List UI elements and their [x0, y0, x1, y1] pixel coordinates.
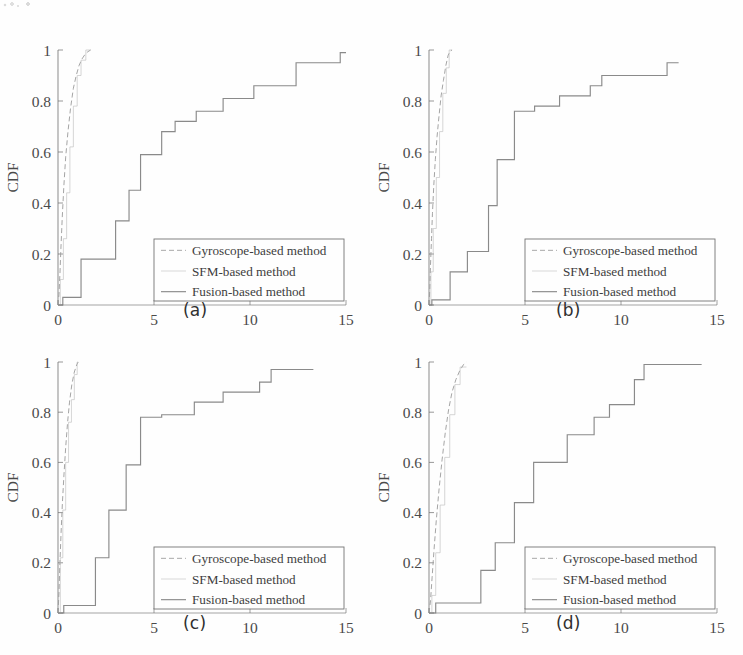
y-tick-label: 0 [414, 297, 422, 314]
y-tick-label: 0.4 [403, 195, 423, 212]
x-tick-label: 15 [338, 311, 354, 328]
legend-label-fusion-based-method: Fusion-based method [563, 284, 677, 299]
legend-label-sfm-based-method: SFM-based method [563, 572, 667, 587]
legend-label-fusion-based-method: Fusion-based method [192, 284, 306, 299]
panel-a: 00.20.40.60.81051015CDFGyroscope-based m… [0, 20, 372, 330]
panel-b-caption: (b) [556, 300, 581, 320]
legend-label-fusion-based-method: Fusion-based method [192, 592, 306, 607]
y-tick-label: 0.8 [403, 93, 423, 110]
x-tick-label: 5 [150, 619, 158, 636]
legend-label-fusion-based-method: Fusion-based method [563, 592, 677, 607]
y-axis-label: CDF [375, 162, 392, 193]
y-tick-label: 0.2 [403, 246, 422, 263]
y-tick-label: 0.2 [32, 246, 51, 263]
x-tick-label: 15 [338, 619, 354, 636]
y-tick-label: 0.6 [403, 144, 423, 161]
series-sfm-based-method [58, 50, 91, 305]
panel-c-plot: 00.20.40.60.81051015CDFGyroscope-based m… [0, 340, 372, 640]
legend-label-gyroscope-based-method: Gyroscope-based method [563, 243, 698, 258]
x-tick-label: 5 [521, 311, 529, 328]
y-tick-label: 0.2 [403, 554, 422, 571]
cdf-figure: 00.20.40.60.81051015CDFGyroscope-based m… [0, 0, 743, 655]
series-gyroscope-based-method [429, 50, 452, 305]
series-gyroscope-based-method [58, 362, 78, 613]
series-sfm-based-method [58, 362, 78, 613]
y-tick-label: 0 [43, 605, 51, 622]
y-tick-label: 1 [414, 42, 422, 59]
x-tick-label: 0 [425, 619, 433, 636]
y-tick-label: 0.8 [32, 93, 52, 110]
series-sfm-based-method [429, 367, 466, 613]
y-tick-label: 0.4 [32, 195, 52, 212]
y-tick-label: 0 [43, 297, 51, 314]
x-tick-label: 10 [242, 619, 258, 636]
y-tick-label: 0.6 [32, 144, 52, 161]
y-tick-label: 1 [43, 42, 51, 59]
panel-d: 00.20.40.60.81051015CDFGyroscope-based m… [371, 340, 743, 640]
y-tick-label: 0.8 [32, 404, 52, 421]
legend-label-sfm-based-method: SFM-based method [192, 572, 296, 587]
panel-c-caption: (c) [183, 613, 206, 633]
x-tick-label: 0 [54, 619, 62, 636]
y-axis-label: CDF [375, 472, 392, 503]
scan-artifact [2, 1, 36, 10]
x-tick-label: 5 [150, 311, 158, 328]
y-tick-label: 0.2 [32, 554, 51, 571]
legend-label-gyroscope-based-method: Gyroscope-based method [192, 551, 327, 566]
y-tick-label: 1 [43, 354, 51, 371]
y-tick-label: 0 [414, 605, 422, 622]
y-axis-label: CDF [4, 162, 21, 193]
legend-label-sfm-based-method: SFM-based method [192, 264, 296, 279]
x-tick-label: 10 [613, 311, 629, 328]
x-tick-label: 0 [425, 311, 433, 328]
y-tick-label: 1 [414, 354, 422, 371]
panel-b-plot: 00.20.40.60.81051015CDFGyroscope-based m… [371, 20, 743, 330]
x-tick-label: 15 [709, 311, 725, 328]
panel-b: 00.20.40.60.81051015CDFGyroscope-based m… [371, 20, 743, 330]
x-tick-label: 5 [521, 619, 529, 636]
series-sfm-based-method [429, 50, 452, 305]
y-tick-label: 0.6 [32, 454, 52, 471]
panel-a-caption: (a) [183, 300, 207, 320]
y-tick-label: 0.8 [403, 404, 423, 421]
x-tick-label: 0 [54, 311, 62, 328]
legend-label-sfm-based-method: SFM-based method [563, 264, 667, 279]
x-tick-label: 15 [709, 619, 725, 636]
y-tick-label: 0.4 [403, 504, 423, 521]
y-tick-label: 0.6 [403, 454, 423, 471]
legend-label-gyroscope-based-method: Gyroscope-based method [192, 243, 327, 258]
panel-d-caption: (d) [556, 613, 581, 633]
x-tick-label: 10 [613, 619, 629, 636]
panel-c: 00.20.40.60.81051015CDFGyroscope-based m… [0, 340, 372, 640]
x-tick-label: 10 [242, 311, 258, 328]
y-tick-label: 0.4 [32, 504, 52, 521]
panel-a-plot: 00.20.40.60.81051015CDFGyroscope-based m… [0, 20, 372, 330]
legend-label-gyroscope-based-method: Gyroscope-based method [563, 551, 698, 566]
y-axis-label: CDF [4, 472, 21, 503]
series-gyroscope-based-method [429, 362, 466, 613]
panel-d-plot: 00.20.40.60.81051015CDFGyroscope-based m… [371, 340, 743, 640]
